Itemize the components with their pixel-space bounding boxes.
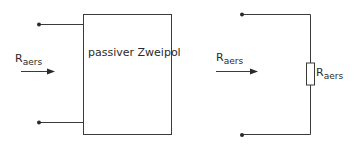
terminal-dot-bottom-right [240, 133, 244, 137]
terminal-dot-top-left [37, 23, 41, 27]
passive-two-terminal-box [84, 15, 172, 135]
arrow-label-left: Raers [15, 52, 42, 67]
arrow-head-right [250, 69, 258, 75]
terminal-dot-top-right [240, 13, 244, 17]
box-label: passiver Zweipol [88, 46, 181, 59]
arrow-head-left [47, 69, 55, 75]
left-diagram [21, 15, 172, 135]
terminal-dot-bottom-left [37, 121, 41, 125]
resistor-symbol [307, 63, 315, 85]
resistor-label: Raers [316, 66, 343, 81]
arrow-label-right: Raers [216, 51, 243, 66]
right-diagram [216, 15, 315, 135]
circuit-diagram: passiver Zweipol Raers Raers Raers [0, 0, 354, 146]
